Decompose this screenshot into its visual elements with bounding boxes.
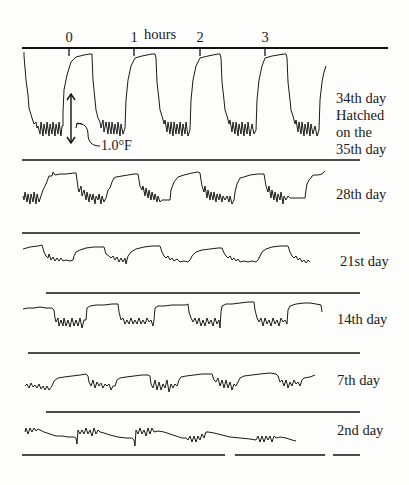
trace-2nd-day (25, 428, 296, 446)
label-34th-day-line4: 35th day (336, 141, 386, 158)
label-21st-day: 21st day (340, 253, 389, 270)
temperature-trace-figure (0, 0, 409, 485)
label-2nd-day: 2nd day (337, 422, 383, 439)
tick-label-2: 2 (196, 29, 203, 46)
trace-14th-day (23, 302, 322, 328)
label-34th-day-line2: Hatched (336, 107, 384, 124)
tick-label-3: 3 (261, 29, 268, 46)
trace-34th-day (24, 52, 326, 136)
label-28th-day: 28th day (336, 186, 386, 203)
label-34th-day-line3: on the (336, 124, 372, 141)
label-34th-day-line1: 34th day (336, 90, 386, 107)
separator-lines (22, 160, 360, 455)
label-14th-day: 14th day (337, 311, 387, 328)
trace-28th-day (23, 171, 325, 204)
trace-21st-day (23, 245, 310, 264)
label-7th-day: 7th day (337, 372, 380, 389)
scale-label: 1.0°F (101, 138, 132, 154)
axis-title: hours (144, 26, 176, 43)
axis-ticks (69, 48, 265, 56)
trace-7th-day (25, 373, 315, 392)
tick-label-1: 1 (130, 29, 137, 46)
tick-label-0: 0 (65, 29, 72, 46)
